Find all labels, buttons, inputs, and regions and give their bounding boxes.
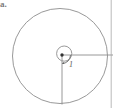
outer-circle (13, 9, 108, 104)
angle-measure-label: 1 (69, 60, 73, 69)
circle-diagram (0, 0, 113, 108)
figure-container: a. 1 (0, 0, 113, 108)
figure-label: a. (0, 0, 7, 9)
center-point-dot (60, 53, 63, 56)
